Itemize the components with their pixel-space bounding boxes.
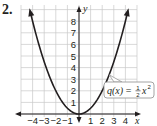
y-axis-up-arrow-icon [77, 6, 82, 12]
x-tick-label: 3 [111, 115, 116, 126]
x-tick-label: 4 [123, 115, 128, 126]
callout-pointer [109, 75, 122, 82]
y-tick-label: 8 [71, 16, 76, 27]
parabola-chart: −4−3−2−1123412345678yx q(x) = 12x2 [0, 0, 157, 126]
x-tick-label: −3 [39, 115, 50, 126]
x-tick-label: 2 [100, 115, 105, 126]
x-axis-left-arrow-icon [15, 112, 21, 117]
y-axis-down-arrow-icon [77, 117, 82, 123]
y-tick-label: 4 [71, 62, 76, 73]
y-tick-label: 3 [71, 74, 76, 85]
function-label: q(x) = [107, 85, 132, 97]
x-tick-label: −2 [50, 115, 61, 126]
x-axis-label: x [134, 115, 140, 126]
x-tick-label: −1 [62, 115, 73, 126]
y-tick-label: 2 [71, 85, 76, 96]
y-tick-label: 7 [71, 27, 76, 38]
y-tick-label: 1 [71, 97, 76, 108]
y-tick-label: 6 [71, 39, 76, 50]
y-tick-label: 5 [71, 51, 76, 62]
function-label-callout: q(x) = 12x2 [104, 75, 154, 98]
x-tick-label: 1 [88, 115, 93, 126]
x-tick-label: −4 [27, 115, 38, 126]
y-axis-label: y [82, 3, 88, 14]
function-variable: x [141, 85, 147, 96]
